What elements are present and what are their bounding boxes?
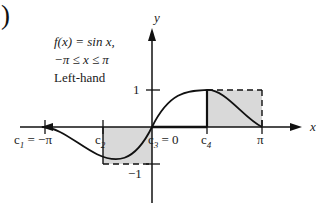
x-label-c4: c4 [201, 132, 211, 150]
x-label-c1: c1 = −π [14, 132, 52, 150]
y-axis-label: y [154, 10, 160, 26]
x-label-c3-rest: = 0 [158, 132, 178, 147]
x-label-c4-sub: 4 [207, 140, 212, 150]
x-axis-label: x [310, 119, 316, 135]
x-label-pi: π [257, 132, 264, 148]
sine-left-hand-riemann-plot [0, 0, 329, 207]
x-axis-arrowhead-right [290, 123, 302, 131]
x-label-c1-rest: = −π [24, 132, 52, 147]
y-label-1: 1 [133, 82, 140, 98]
x-label-pi-main: π [257, 132, 264, 147]
y-label-minus-1: −1 [128, 166, 142, 182]
x-label-c3: c3 = 0 [148, 132, 179, 150]
y-axis-arrowhead-up [148, 28, 156, 41]
x-label-c2: c2 [95, 132, 105, 150]
x-label-c2-sub: 2 [101, 140, 106, 150]
